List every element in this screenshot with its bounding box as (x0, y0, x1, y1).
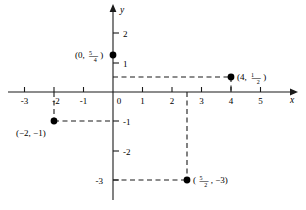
y-axis-arrow-icon (110, 4, 117, 12)
x-tick-label-3: 3 (199, 96, 204, 106)
data-point-neg2-neg1[interactable] (51, 118, 58, 125)
x-tick-label--3: -3 (21, 96, 29, 106)
x-tick-label-4: 4 (229, 96, 234, 106)
data-label-point-4-1-2: (4, 1 — 2 ) (237, 69, 266, 86)
svg-text:( 5 —: ( 5 — 2 , −3) (193, 172, 228, 189)
data-label-5-2-neg3-open: ( (193, 175, 196, 185)
x-axis-ticks (25, 87, 261, 92)
data-point-5-2-neg3[interactable] (184, 177, 191, 184)
data-label-5-2-neg3-close: , −3) (211, 175, 228, 185)
data-label-point-neg2-neg1: (−2, −1) (16, 128, 46, 138)
y-tick-label-2: 2 (123, 29, 128, 39)
data-label-point-5-2-neg3: ( 5 — 2 , −3) (193, 172, 228, 189)
svg-text:(0, 5 —: (0, 5 — 4 ) (75, 47, 103, 64)
x-tick-label-2: 2 (170, 96, 175, 106)
coordinate-plane-figure: -3 -2 -1 0 1 2 3 4 5 2 1 -1 -2 -3 x y (0, 0, 306, 210)
data-label-0-5-4-denominator: 4 (94, 57, 97, 63)
data-label-5-2-neg3-denominator: 2 (204, 182, 207, 188)
x-axis-tick-labels: -3 -2 -1 0 1 2 3 4 5 (21, 96, 264, 106)
data-label-4-1-2-close: ) (263, 72, 266, 82)
x-axis-label: x (289, 95, 295, 105)
x-tick-label--1: -1 (80, 96, 88, 106)
x-tick-label--2: -2 (52, 96, 60, 106)
data-points-group (51, 52, 235, 184)
y-tick-label--3: -3 (96, 176, 104, 186)
y-axis-label: y (119, 5, 125, 15)
svg-text:(4, 1 —: (4, 1 — 2 ) (237, 69, 266, 86)
data-label-4-1-2-open: (4, (237, 72, 247, 82)
x-tick-label-1: 1 (140, 96, 145, 106)
data-point-0-5-4[interactable] (110, 52, 117, 59)
x-tick-label-5: 5 (258, 96, 263, 106)
data-label-0-5-4-open: (0, (75, 50, 85, 60)
data-label-4-1-2-denominator: 2 (257, 79, 260, 85)
data-label-neg2-neg1-text: (−2, −1) (16, 128, 46, 138)
data-label-0-5-4-close: ) (100, 50, 103, 60)
coordinate-plane-svg: -3 -2 -1 0 1 2 3 4 5 2 1 -1 -2 -3 x y (0, 0, 306, 210)
y-tick-label--2: -2 (123, 147, 131, 157)
data-point-4-1-2[interactable] (228, 74, 235, 81)
x-tick-label-0: 0 (117, 96, 122, 106)
y-tick-label--1: -1 (123, 117, 131, 127)
y-tick-label-1: 1 (123, 59, 128, 69)
data-label-point-0-5-4: (0, 5 — 4 ) (75, 47, 103, 64)
